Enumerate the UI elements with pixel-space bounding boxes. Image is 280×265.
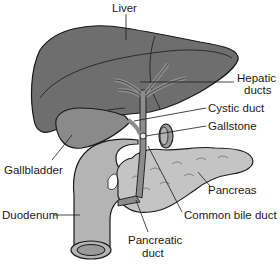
label-gallstone: Gallstone (208, 120, 257, 132)
label-pancreatic-duct-2: duct (142, 247, 164, 259)
duodenum-loop (159, 124, 173, 148)
label-gallbladder: Gallbladder (4, 164, 63, 176)
label-pancreas: Pancreas (208, 184, 257, 196)
gallstone (140, 133, 146, 139)
label-hepatic-ducts-1: Hepatic (237, 72, 276, 84)
label-cystic-duct: Cystic duct (208, 102, 264, 114)
label-pancreatic-duct-1: Pancreatic (128, 234, 182, 246)
anatomy-diagram (0, 0, 280, 265)
label-duodenum: Duodenum (2, 209, 58, 221)
label-common-bile-duct: Common bile duct (184, 209, 277, 221)
label-hepatic-ducts-2: ducts (244, 84, 272, 96)
label-liver: Liver (112, 2, 137, 14)
